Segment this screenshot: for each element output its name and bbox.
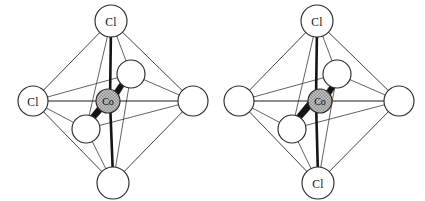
edge-top-left (239, 21, 317, 101)
edge-bottom-right (113, 101, 193, 183)
atom-right-right-structure (384, 86, 414, 116)
label-chlorine-top-right-structure: Cl (311, 16, 322, 28)
atom-front-left-structure (117, 60, 145, 88)
atom-back-left-structure (72, 115, 100, 143)
atoms-left: Cl Cl Co (18, 5, 208, 199)
label-chlorine-left-left-structure: Cl (27, 96, 38, 108)
label-cobalt-right-structure: Co (314, 96, 326, 107)
atom-left-right-structure (224, 86, 254, 116)
edge-top-right (111, 21, 193, 101)
edge-top-left (33, 21, 111, 101)
label-chlorine-bottom-right-structure: Cl (312, 178, 323, 190)
structure-left: Cl Cl Co (18, 5, 208, 199)
label-chlorine-top-left-structure: Cl (105, 16, 116, 28)
structure-right: Cl Cl Co (224, 5, 414, 199)
edge-bottom-left (33, 101, 113, 183)
octahedral-complex-diagram: Cl Cl Co (0, 0, 425, 201)
atom-bottom-left-structure (97, 167, 129, 199)
atoms-right: Cl Cl Co (224, 5, 414, 199)
atom-front-right-structure (323, 60, 351, 88)
atom-back-right-structure (278, 115, 306, 143)
atom-right-left-structure (178, 86, 208, 116)
figure-root: Cl Cl Co (0, 0, 425, 201)
label-cobalt-left-structure: Co (102, 96, 114, 107)
